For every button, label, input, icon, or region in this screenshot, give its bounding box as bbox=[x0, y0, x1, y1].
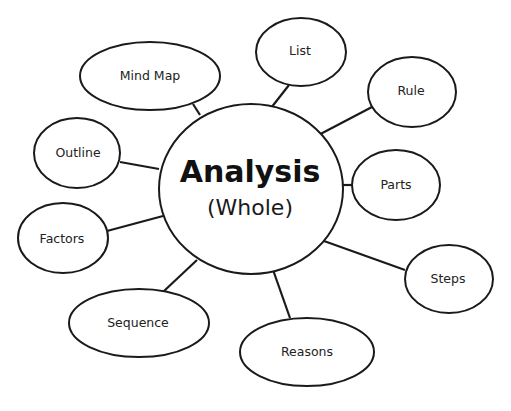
node-reasons: Reasons bbox=[240, 318, 374, 386]
node-label: List bbox=[289, 43, 311, 58]
node-outline: Outline bbox=[34, 118, 120, 188]
node-label: Factors bbox=[40, 231, 85, 246]
connector-sequence bbox=[164, 260, 197, 291]
center-node: Analysis (Whole) bbox=[159, 104, 343, 274]
node-list: List bbox=[256, 18, 346, 86]
node-label: Parts bbox=[380, 177, 411, 192]
node-rule: Rule bbox=[368, 57, 456, 127]
connector-factors bbox=[107, 216, 163, 231]
node-factors: Factors bbox=[18, 203, 108, 273]
center-subtitle: (Whole) bbox=[207, 195, 293, 220]
analysis-mind-map: Analysis (Whole) Mind Map List Rule Outl… bbox=[0, 0, 511, 411]
connector-list bbox=[271, 85, 289, 108]
node-label: Rule bbox=[397, 83, 425, 98]
node-label: Steps bbox=[431, 271, 466, 286]
node-steps: Steps bbox=[405, 245, 493, 313]
connector-mind-map bbox=[193, 104, 200, 115]
center-title: Analysis bbox=[180, 154, 321, 189]
node-parts: Parts bbox=[352, 150, 440, 220]
center-circle bbox=[159, 104, 343, 274]
node-label: Mind Map bbox=[120, 68, 181, 83]
node-label: Sequence bbox=[107, 315, 169, 330]
node-label: Reasons bbox=[281, 344, 333, 359]
node-label: Outline bbox=[55, 145, 101, 160]
connector-outline bbox=[120, 162, 159, 169]
node-mind-map: Mind Map bbox=[80, 42, 220, 110]
node-sequence: Sequence bbox=[69, 289, 209, 357]
connector-reasons bbox=[272, 267, 290, 318]
